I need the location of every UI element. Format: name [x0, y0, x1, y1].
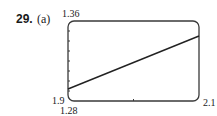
- graph-line: [68, 36, 199, 89]
- graph-frame: [68, 21, 199, 101]
- graph-window: [0, 0, 217, 116]
